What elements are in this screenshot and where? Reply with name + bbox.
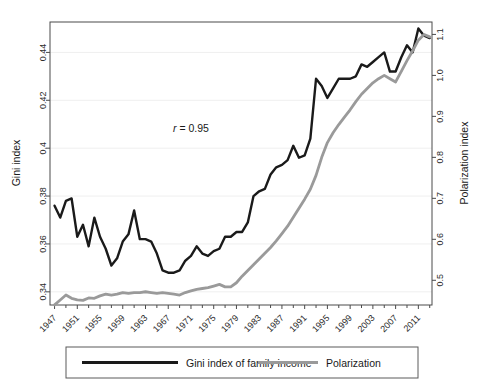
x-tick-label-4: 1963 — [128, 313, 149, 334]
y2-tick-label-6: 1.1 — [435, 28, 445, 41]
x-tick-label-10: 1987 — [265, 313, 286, 334]
x-tick-label-15: 2007 — [378, 313, 399, 334]
x-tick-label-9: 1983 — [242, 313, 263, 334]
plot-background — [50, 22, 432, 305]
y-tick-label-5: 0.44 — [38, 44, 48, 62]
x-tick-label-6: 1971 — [174, 313, 195, 334]
x-tick-label-2: 1955 — [83, 313, 104, 334]
y-axis-right-title: Polarization index — [458, 121, 470, 205]
y2-tick-label-0: 0.5 — [435, 274, 445, 287]
correlation-annotation: r = 0.95 — [173, 122, 209, 134]
y2-tick-label-2: 0.7 — [435, 192, 445, 205]
y2-tick-label-3: 0.8 — [435, 151, 445, 164]
y2-tick-label-1: 0.6 — [435, 233, 445, 246]
x-axis-ticks — [55, 305, 419, 309]
y-axis-left-tick-labels: 0.340.360.380.40.420.44 — [38, 44, 48, 301]
y-tick-label-0: 0.34 — [38, 283, 48, 301]
y-axis-left-title: Gini index — [10, 139, 22, 186]
line-chart: 1947195119551959196319671971197519791983… — [0, 0, 483, 387]
x-axis-tick-labels: 1947195119551959196319671971197519791983… — [37, 313, 422, 334]
x-tick-label-3: 1959 — [105, 313, 126, 334]
x-tick-label-8: 1979 — [219, 313, 240, 334]
x-tick-label-5: 1967 — [151, 313, 172, 334]
figure-container: 1947195119551959196319671971197519791983… — [0, 0, 483, 387]
x-tick-label-0: 1947 — [37, 313, 58, 334]
y-tick-label-4: 0.42 — [38, 92, 48, 110]
x-tick-label-12: 1995 — [310, 313, 331, 334]
x-tick-label-14: 2003 — [356, 313, 377, 334]
x-tick-label-13: 1999 — [333, 313, 354, 334]
y-tick-label-3: 0.4 — [38, 142, 48, 155]
x-tick-label-1: 1951 — [60, 313, 81, 334]
y-axis-right-tick-labels: 0.50.60.70.80.91.01.1 — [435, 28, 445, 286]
chart-legend: Gini index of family incomePolarization — [66, 347, 418, 378]
legend-label-1: Polarization — [326, 357, 381, 369]
annotation-value: = 0.95 — [177, 122, 210, 134]
x-tick-label-7: 1975 — [196, 313, 217, 334]
y2-tick-label-5: 1.0 — [435, 69, 445, 82]
y-axis-left-ticks — [46, 52, 50, 291]
y2-tick-label-4: 0.9 — [435, 110, 445, 123]
x-tick-label-16: 2011 — [402, 313, 423, 334]
y-tick-label-2: 0.38 — [38, 187, 48, 205]
x-tick-label-11: 1991 — [287, 313, 308, 334]
y-tick-label-1: 0.36 — [38, 235, 48, 253]
